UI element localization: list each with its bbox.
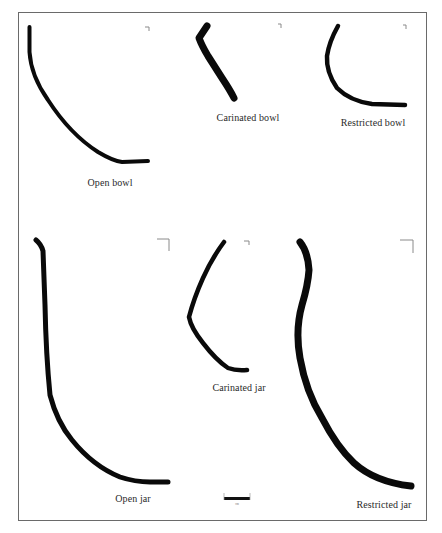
carinated-jar-profile bbox=[189, 242, 247, 370]
restricted-jar-orientation-mark bbox=[400, 240, 413, 253]
scale-bar bbox=[224, 493, 250, 500]
open-bowl-profile bbox=[30, 27, 149, 162]
restricted-bowl-profile bbox=[327, 26, 405, 105]
carinated-bowl-label: Carinated bowl bbox=[217, 112, 280, 123]
carinated-bowl-profile bbox=[199, 26, 234, 98]
carinated-bowl-orientation-mark bbox=[278, 24, 281, 28]
open-jar-label: Open jar bbox=[115, 493, 151, 504]
vessel-profiles-drawing bbox=[0, 0, 442, 533]
restricted-jar-profile bbox=[298, 242, 411, 486]
open-bowl-orientation-mark bbox=[145, 27, 149, 31]
open-bowl-label: Open bowl bbox=[87, 177, 132, 188]
restricted-jar-label: Restricted jar bbox=[357, 499, 412, 510]
restricted-bowl-orientation-mark bbox=[403, 25, 406, 29]
restricted-bowl-label: Restricted bowl bbox=[341, 117, 406, 128]
scale-bar-label: cm bbox=[235, 502, 239, 506]
carinated-jar-label: Carinated jar bbox=[212, 382, 265, 393]
open-jar-orientation-mark bbox=[157, 239, 169, 251]
open-jar-profile bbox=[36, 240, 168, 482]
carinated-jar-orientation-mark bbox=[244, 241, 249, 245]
